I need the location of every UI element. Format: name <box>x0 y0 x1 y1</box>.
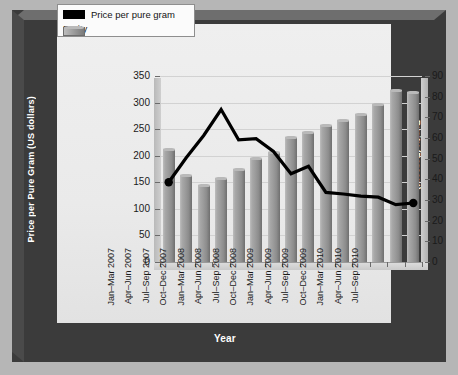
price-line-endpoint-marker <box>165 178 173 186</box>
x-tick-label: Apr–Jun 2010 <box>334 248 343 304</box>
y-axis-title-left-main: Price per Pure Gram <box>26 152 36 243</box>
chart-legend: Price per pure gram Purity <box>57 4 195 37</box>
x-tick-mark <box>370 262 371 267</box>
x-tick-label: Jan–Mar 2008 <box>177 248 186 306</box>
y-axis-title-left: Price per Pure Gram (US dollars) <box>26 96 56 242</box>
legend-item-price: Price per pure gram <box>63 8 189 21</box>
price-line-path <box>169 110 414 205</box>
x-tick-label: Jul–Sep 2009 <box>281 248 290 303</box>
x-tick-label: Jan–Mar 2007 <box>107 248 116 306</box>
x-tick-label: Jul–Sep 2007 <box>142 248 151 303</box>
x-tick-label: Jul–Sep 2010 <box>351 248 360 303</box>
x-tick-label: Jul–Sep 2008 <box>212 248 221 303</box>
x-tick-label: Oct–Dec 2008 <box>229 248 238 306</box>
x-tick-label: Oct–Dec 2009 <box>299 248 308 306</box>
x-tick-label: Jan–Mar 2009 <box>246 248 255 306</box>
legend-swatch-bar-icon <box>63 27 85 36</box>
x-tick-label: Apr–Jun 2007 <box>124 248 133 304</box>
x-tick-label: Jan–Mar 2010 <box>316 248 325 306</box>
legend-item-purity: Purity <box>63 22 189 35</box>
legend-swatch-line-icon <box>63 10 85 19</box>
chart-screenshot: Price per Pure Gram (US dollars) Purity … <box>0 0 458 375</box>
y-axis-title-left-sub: (US dollars) <box>26 96 36 149</box>
legend-label-price: Price per pure gram <box>91 10 175 20</box>
plot-panel: 050100150200250300350 010203040506070809… <box>57 24 391 323</box>
x-tick-mark <box>387 262 388 267</box>
x-tick-mark <box>422 262 423 267</box>
x-tick-label: Apr–Jun 2008 <box>194 248 203 304</box>
x-tick-mark <box>405 262 406 267</box>
x-tick-label: Oct–Dec 2007 <box>159 248 168 306</box>
chart-frame-bevel-left <box>12 10 24 362</box>
x-tick-label: Apr–Jun 2009 <box>264 248 273 304</box>
price-line-endpoint-marker <box>409 199 417 207</box>
